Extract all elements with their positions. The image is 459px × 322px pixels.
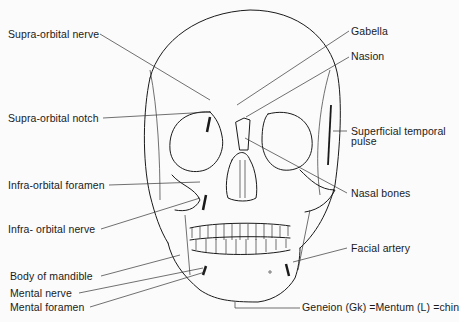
label-supra-orbital-notch: Supra-orbital notch	[8, 113, 99, 124]
right-orbit	[262, 112, 312, 170]
label-nasal-bones: Nasal bones	[351, 188, 410, 199]
label-geneion: Geneion (Gk) =Mentum (L) =chin	[302, 302, 459, 313]
nasal-bones	[236, 118, 250, 150]
label-pulse: pulse	[351, 136, 377, 147]
label-mental-foramen: Mental foramen	[10, 302, 84, 313]
cranium-outline	[150, 10, 340, 248]
label-infra-orbital-foramen: Infra-orbital foramen	[8, 180, 105, 191]
label-facial-artery: Facial artery	[351, 243, 410, 254]
label-infra-orbital-nerve: Infra- orbital nerve	[8, 224, 95, 235]
label-supra-orbital-nerve: Supra-orbital nerve	[8, 29, 99, 40]
skull-diagram: Supra-orbital nerve Supra-orbital notch …	[0, 0, 459, 322]
label-mental-nerve: Mental nerve	[10, 288, 72, 299]
label-nasion: Nasion	[351, 51, 384, 62]
left-orbit	[170, 112, 223, 172]
label-body-of-mandible: Body of mandible	[10, 271, 93, 282]
nasal-aperture	[226, 153, 256, 202]
label-gabella: Gabella	[351, 26, 388, 37]
